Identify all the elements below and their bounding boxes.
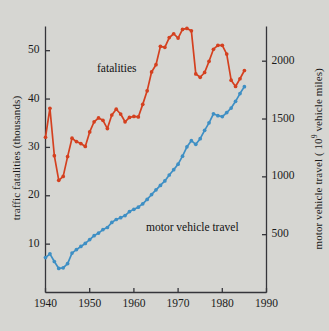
data-point	[92, 234, 96, 238]
x-tick-label-1940: 1940	[26, 297, 66, 309]
data-point	[106, 127, 110, 131]
data-point	[212, 112, 216, 116]
data-point	[163, 45, 167, 49]
data-point	[66, 155, 70, 159]
data-point	[203, 71, 207, 75]
plot-area	[0, 0, 329, 331]
data-point	[229, 78, 233, 82]
data-point	[234, 85, 238, 89]
data-point	[92, 120, 96, 124]
data-point	[136, 115, 140, 119]
x-tick-label-1950: 1950	[70, 297, 110, 309]
data-point	[238, 77, 242, 81]
data-point	[225, 111, 229, 115]
data-point	[154, 63, 158, 67]
data-point	[48, 252, 52, 256]
data-point	[145, 89, 149, 93]
data-point	[234, 99, 238, 103]
data-point	[145, 198, 149, 202]
data-point	[190, 29, 194, 33]
right-axis-title-pre: motor vehicle travel ( 10	[312, 138, 324, 249]
data-point	[70, 136, 74, 140]
data-point	[88, 238, 92, 242]
right-axis-title-post: vehicle miles)	[312, 68, 324, 134]
data-point	[44, 256, 48, 260]
data-point	[101, 228, 105, 232]
data-point	[128, 210, 132, 214]
data-point	[167, 36, 171, 40]
data-point	[172, 32, 176, 36]
data-point	[136, 205, 140, 209]
data-point	[154, 188, 158, 192]
data-point	[194, 72, 198, 76]
data-point	[52, 260, 56, 264]
x-tick-label-1980: 1980	[202, 297, 242, 309]
data-point	[190, 139, 194, 143]
data-point	[225, 52, 229, 56]
data-point	[203, 129, 207, 133]
data-point	[220, 44, 224, 48]
y-right-tick-label-2000: 2000	[272, 54, 302, 66]
series-fatalities	[44, 27, 247, 183]
data-point	[57, 178, 61, 182]
y-left-tick-label-30: 30	[14, 140, 40, 152]
data-point	[150, 193, 154, 197]
data-point	[198, 137, 202, 141]
data-point	[159, 44, 163, 48]
data-point	[238, 92, 242, 96]
x-tick-label-1960: 1960	[114, 297, 154, 309]
data-point	[123, 214, 127, 218]
data-point	[150, 70, 154, 74]
data-point	[79, 245, 83, 249]
data-point	[181, 28, 185, 32]
data-point	[106, 226, 110, 230]
data-point	[75, 140, 79, 144]
data-point	[79, 142, 83, 146]
data-point	[110, 221, 114, 225]
data-point	[243, 85, 247, 89]
y-right-tick-label-1500: 1500	[272, 112, 302, 124]
x-tick-label-1970: 1970	[158, 297, 198, 309]
data-point	[185, 145, 189, 149]
data-point	[243, 69, 247, 73]
data-point	[61, 175, 65, 179]
data-point	[52, 154, 56, 158]
data-point	[172, 168, 176, 172]
chart-figure: traffic fatalities (thousands) motor veh…	[0, 0, 329, 331]
data-point	[176, 36, 180, 40]
data-point	[216, 114, 220, 118]
series-label-fatalities: fatalities	[97, 62, 137, 74]
data-point	[207, 59, 211, 63]
data-point	[97, 231, 101, 235]
data-point	[212, 47, 216, 51]
data-point	[176, 162, 180, 166]
data-point	[128, 116, 132, 120]
data-point	[83, 242, 87, 246]
data-point	[207, 121, 211, 125]
series-motor-vehicle-travel	[44, 85, 247, 271]
data-point	[194, 143, 198, 147]
data-point	[229, 106, 233, 110]
y-left-tick-label-10: 10	[14, 237, 40, 249]
data-point	[83, 145, 87, 149]
data-point	[159, 184, 163, 188]
data-point	[185, 27, 189, 31]
data-point	[181, 154, 185, 158]
data-point	[123, 120, 127, 124]
y-left-tick-label-20: 20	[14, 188, 40, 200]
data-point	[48, 106, 52, 110]
data-point	[61, 266, 65, 270]
data-point	[141, 103, 145, 107]
y-left-tick-label-50: 50	[14, 43, 40, 55]
data-point	[114, 218, 118, 222]
axis-ticks	[46, 51, 267, 293]
y-left-tick-label-40: 40	[14, 92, 40, 104]
data-point	[119, 112, 123, 116]
data-point	[198, 75, 202, 79]
left-axis-title: traffic fatalities (thousands)	[10, 58, 22, 258]
data-point	[141, 202, 145, 206]
data-point	[119, 216, 123, 220]
data-point	[88, 130, 92, 134]
data-point	[167, 173, 171, 177]
data-point	[66, 262, 70, 266]
